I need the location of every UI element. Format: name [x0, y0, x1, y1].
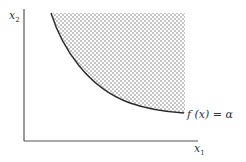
- y-axis-label: x2: [9, 9, 20, 24]
- y-axis-label-subscript: 2: [15, 16, 19, 24]
- x-axis-label: x1: [194, 142, 205, 157]
- x-axis-label-subscript: 1: [200, 149, 204, 157]
- contour-diagram: x2 x1 f (x) = α: [0, 0, 246, 162]
- curve-label: f (x) = α: [186, 108, 234, 121]
